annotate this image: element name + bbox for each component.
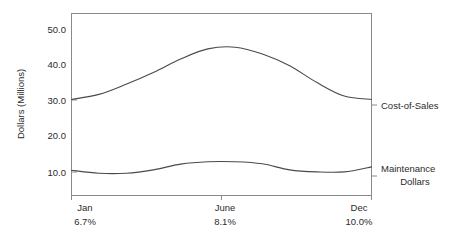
x-tick-label-jan: Jan [77,202,92,213]
plot-frame [72,14,372,196]
x-axis-tick-labels: Jan 6.7% June 8.1% Dec 10.0% [74,202,373,227]
y-tick-label-20: 20.0 [48,130,67,141]
x-axis-ticks [72,196,372,201]
line-chart: 50.0 40.0 30.0 20.0 10.0 Dollars (Millio… [0,0,464,236]
x-tick-sublabel-dec: 10.0% [346,216,373,227]
chart-canvas: 50.0 40.0 30.0 20.0 10.0 Dollars (Millio… [0,0,464,236]
y-tick-label-30: 30.0 [48,95,67,106]
x-tick-sublabel-june: 8.1% [214,216,236,227]
series-label-maintenance-line1: Maintenance [381,163,435,174]
x-tick-sublabel-jan: 6.7% [74,216,96,227]
y-axis-ticks [72,100,78,172]
series-label-cost-of-sales: Cost-of-Sales [381,100,439,111]
y-tick-label-50: 50.0 [48,24,67,35]
series-line-cost-of-sales [72,47,372,100]
y-tick-label-10: 10.0 [48,167,67,178]
series-line-maintenance-dollars [72,162,372,174]
y-tick-label-40: 40.0 [48,59,67,70]
y-axis-tick-labels: 50.0 40.0 30.0 20.0 10.0 [48,24,67,178]
series-label-cost-of-sales-group: Cost-of-Sales [372,100,439,111]
x-tick-label-dec: Dec [351,202,368,213]
x-tick-label-june: June [215,202,236,213]
y-axis-title: Dollars (Millions) [15,69,26,139]
series-label-maintenance-line2: Dollars [400,176,430,187]
series-label-maintenance-group: Maintenance Dollars [372,163,436,187]
